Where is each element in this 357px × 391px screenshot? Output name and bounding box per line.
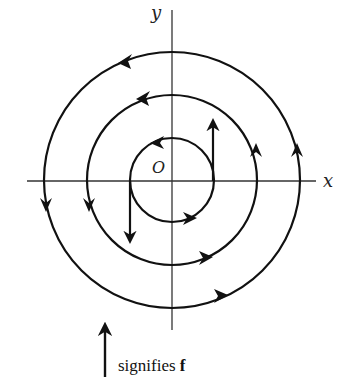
legend-text: signifies f bbox=[118, 356, 186, 376]
origin-label: O bbox=[152, 158, 165, 177]
legend-symbol: f bbox=[180, 356, 186, 375]
arrowhead-icon bbox=[214, 289, 228, 303]
x-axis-label: x bbox=[323, 170, 333, 191]
y-axis-label: y bbox=[151, 2, 161, 23]
legend-label: signifies bbox=[118, 356, 180, 375]
arrowhead-icon bbox=[118, 54, 132, 69]
arrowhead-icon bbox=[199, 251, 213, 265]
spiral-vector-field-diagram bbox=[0, 0, 357, 391]
arrowhead-icon bbox=[150, 136, 164, 149]
